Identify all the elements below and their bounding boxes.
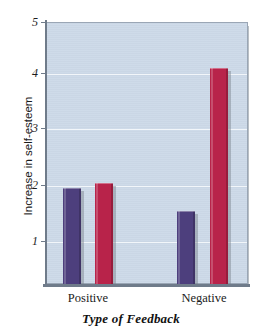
y-axis-title: Increase in self-esteem xyxy=(22,66,34,246)
bar-positive-purple[interactable] xyxy=(63,188,81,284)
bar-shade xyxy=(79,188,81,284)
bar-shade xyxy=(193,211,195,284)
bar-cap xyxy=(63,188,81,189)
bar-cap xyxy=(210,68,228,69)
bar-highlight xyxy=(178,211,180,284)
y-tick-mark-1 xyxy=(41,241,45,242)
bar-chart-figure: 5 4 3 2 1 Positive Negative Type of Feed… xyxy=(0,0,262,331)
bar-negative-purple[interactable] xyxy=(177,211,195,284)
bar-highlight xyxy=(96,183,98,284)
y-tick-mark-2 xyxy=(41,185,45,186)
bar-positive-red[interactable] xyxy=(95,183,113,284)
bar-shade xyxy=(111,183,113,284)
y-tick-mark-5 xyxy=(41,22,45,23)
x-category-label-positive: Positive xyxy=(48,291,128,305)
x-axis-line xyxy=(43,284,250,287)
x-axis-title: Type of Feedback xyxy=(0,311,262,327)
y-tick-mark-4 xyxy=(41,73,45,74)
bar-highlight xyxy=(211,68,213,284)
bar-cap xyxy=(95,183,113,184)
y-tick-mark-3 xyxy=(41,128,45,129)
y-tick-label-5: 5 xyxy=(16,16,38,28)
bar-cap xyxy=(177,211,195,212)
bar-highlight xyxy=(64,188,66,284)
x-category-label-negative: Negative xyxy=(162,291,246,305)
bar-negative-red[interactable] xyxy=(210,68,228,284)
bar-shade xyxy=(226,68,228,284)
y-axis-line xyxy=(45,20,47,286)
